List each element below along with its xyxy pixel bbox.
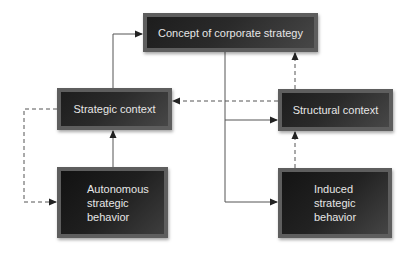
edge-corporate-to-structural <box>225 52 277 120</box>
edge-strategic-to-autonomous <box>24 109 57 202</box>
node-label: Structural context <box>282 93 389 127</box>
node-concept-of-corporate-strategy: Concept of corporate strategy <box>143 13 318 52</box>
node-label: Strategic context <box>61 92 168 126</box>
node-autonomous-strategic-behavior: Autonomous strategic behavior <box>57 167 168 238</box>
node-label: Concept of corporate strategy <box>147 17 314 48</box>
node-structural-context: Structural context <box>278 89 393 131</box>
edge-corporate-to-induced <box>225 120 277 202</box>
strategy-process-diagram: Concept of corporate strategy Strategic … <box>0 0 415 256</box>
node-induced-strategic-behavior: Induced strategic behavior <box>278 168 392 238</box>
node-strategic-context: Strategic context <box>57 88 172 130</box>
node-label: Autonomous strategic behavior <box>61 171 164 234</box>
edge-strategic-to-corporate <box>113 34 142 88</box>
node-label: Induced strategic behavior <box>282 172 388 234</box>
